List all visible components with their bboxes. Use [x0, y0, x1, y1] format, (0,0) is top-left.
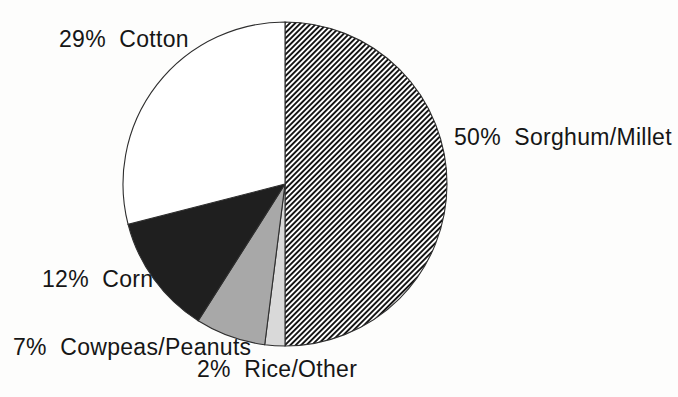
- slice-label-cotton: 29% Cotton: [59, 26, 189, 53]
- pie-chart-figure: 50% Sorghum/Millet 2% Rice/Other 7% Cowp…: [0, 0, 678, 397]
- slice-label-cowpeas-peanuts: 7% Cowpeas/Peanuts: [13, 334, 251, 361]
- slice-label-sorghum-millet: 50% Sorghum/Millet: [454, 124, 672, 151]
- slice-label-corn: 12% Corn: [42, 266, 153, 293]
- pie-slice-sorghum-millet: [285, 22, 447, 346]
